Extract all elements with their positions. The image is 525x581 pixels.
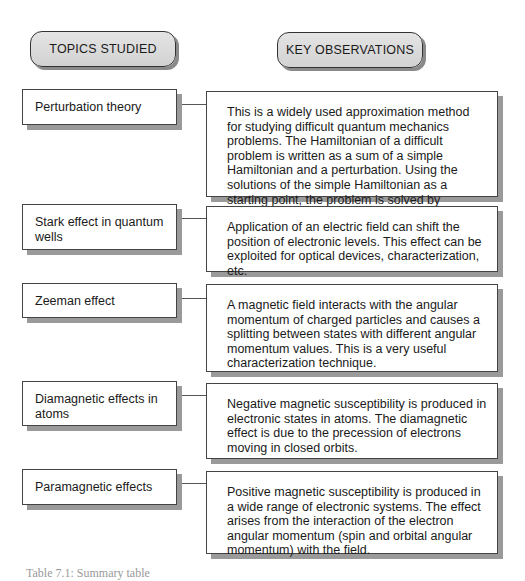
- topic-box: Diamagnetic effects in atoms: [22, 381, 177, 426]
- topic-box: Stark effect in quantum wells: [22, 204, 177, 250]
- observation-box: A magnetic field interacts with the angu…: [206, 284, 498, 372]
- topic-label: Perturbation theory: [35, 100, 141, 114]
- topic-label: Paramagnetic effects: [35, 480, 152, 494]
- topic-label: Zeeman effect: [35, 294, 115, 308]
- header-topics-label: TOPICS STUDIED: [49, 42, 156, 56]
- topic-label: Stark effect in quantum wells: [35, 215, 163, 244]
- connector-line: [182, 218, 206, 219]
- observation-box: Application of an electric field can shi…: [206, 206, 498, 272]
- connector-line: [182, 104, 206, 105]
- connector-line: [182, 298, 206, 299]
- observation-text: Positive magnetic susceptibility is prod…: [227, 485, 481, 557]
- connector-line: [182, 395, 206, 396]
- observation-text: Negative magnetic susceptibility is prod…: [227, 397, 486, 455]
- topic-box: Paramagnetic effects: [22, 469, 177, 505]
- observation-text: This is a widely used approximation meth…: [227, 105, 469, 221]
- topic-label: Diamagnetic effects in atoms: [35, 392, 158, 421]
- observation-text: A magnetic field interacts with the angu…: [227, 298, 480, 370]
- observation-box: This is a widely used approximation meth…: [206, 91, 498, 197]
- topic-box: Perturbation theory: [22, 89, 177, 125]
- topic-box: Zeeman effect: [22, 283, 177, 318]
- header-topics-studied: TOPICS STUDIED: [30, 31, 176, 67]
- connector-line: [182, 483, 206, 484]
- observation-box: Negative magnetic susceptibility is prod…: [206, 383, 498, 459]
- observation-text: Application of an electric field can shi…: [227, 220, 482, 278]
- header-key-observations: KEY OBSERVATIONS: [277, 32, 423, 68]
- observation-box: Positive magnetic susceptibility is prod…: [206, 471, 498, 554]
- header-observations-label: KEY OBSERVATIONS: [286, 43, 414, 57]
- table-caption: Table 7.1: Summary table: [26, 566, 150, 581]
